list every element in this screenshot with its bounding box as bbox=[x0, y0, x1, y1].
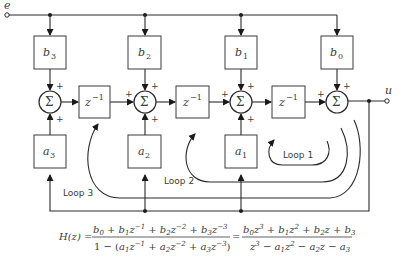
svg-text:0: 0 bbox=[338, 52, 343, 61]
svg-text:b0z3 + b1z2 + b2z + b3: b0z3 + b1z2 + b2z + b3 bbox=[243, 223, 356, 237]
svg-text:+: + bbox=[151, 114, 159, 124]
svg-text:+: + bbox=[247, 114, 255, 124]
svg-text:+: + bbox=[221, 89, 229, 99]
sum-junction-1: Σ bbox=[230, 91, 252, 113]
delay-block-1: z −1 bbox=[79, 86, 110, 118]
svg-text:1: 1 bbox=[242, 151, 247, 160]
svg-text:2: 2 bbox=[146, 52, 151, 61]
input-label: e bbox=[4, 0, 11, 12]
svg-text:Σ: Σ bbox=[236, 95, 244, 109]
svg-text:2: 2 bbox=[145, 151, 150, 160]
svg-text:z: z bbox=[182, 96, 189, 109]
svg-text:H(z) =: H(z) = bbox=[58, 231, 92, 242]
svg-text:+: + bbox=[56, 114, 64, 124]
delay-block-3: z −1 bbox=[272, 86, 305, 118]
svg-text:Σ: Σ bbox=[140, 95, 148, 109]
loop-1-label: Loop 1 bbox=[283, 150, 313, 160]
svg-text:a: a bbox=[235, 145, 242, 158]
svg-text:Σ: Σ bbox=[332, 95, 340, 109]
svg-text:−1: −1 bbox=[92, 93, 104, 102]
transfer-function-equation: H(z) = b0 + b1z−1 + b2z−2 + b3z−3 1 − (a… bbox=[58, 223, 356, 254]
gain-block-a2: a 2 bbox=[128, 135, 161, 168]
svg-text:z: z bbox=[278, 96, 285, 109]
svg-text:+: + bbox=[125, 89, 133, 99]
delay-block-2: z −1 bbox=[176, 86, 209, 118]
svg-text:−1: −1 bbox=[286, 93, 298, 102]
svg-text:+: + bbox=[151, 81, 159, 91]
svg-text:+: + bbox=[343, 81, 351, 91]
svg-text:a: a bbox=[138, 145, 145, 158]
sum-junction-2: Σ bbox=[134, 91, 156, 113]
svg-text:b0 + b1z−1 + b2z−2 + b3z−3: b0 + b1z−1 + b2z−2 + b3z−3 bbox=[93, 223, 228, 237]
gain-block-a3: a 3 bbox=[34, 135, 66, 168]
gain-block-a1: a 1 bbox=[225, 135, 257, 168]
svg-text:1 − (a1z−1 + a2z−2 + a3z−3): 1 − (a1z−1 + a2z−2 + a3z−3) bbox=[94, 240, 231, 254]
gain-block-b2: b 2 bbox=[128, 36, 161, 69]
svg-text:b: b bbox=[43, 46, 50, 59]
output-terminal bbox=[385, 99, 389, 103]
svg-text:+: + bbox=[56, 81, 64, 91]
input-terminal bbox=[5, 13, 9, 17]
svg-text:+: + bbox=[317, 89, 325, 99]
svg-text:=: = bbox=[232, 231, 240, 242]
gain-block-b0: b 0 bbox=[321, 36, 353, 69]
svg-text:a: a bbox=[43, 145, 50, 158]
loop-2-label: Loop 2 bbox=[164, 176, 194, 186]
output-label: u bbox=[385, 84, 392, 97]
svg-text:b: b bbox=[138, 46, 145, 59]
sum-junction-3: Σ bbox=[39, 91, 61, 113]
loop-2-arrow bbox=[186, 128, 347, 182]
block-diagram: e b 3 b 2 b 1 b 0 Σ Σ Σ bbox=[0, 0, 403, 260]
svg-text:−1: −1 bbox=[190, 93, 202, 102]
svg-text:b: b bbox=[330, 46, 337, 59]
svg-text:3: 3 bbox=[50, 151, 55, 160]
svg-text:3: 3 bbox=[51, 52, 56, 61]
svg-text:Σ: Σ bbox=[45, 95, 53, 109]
gain-block-b3: b 3 bbox=[34, 36, 66, 69]
gain-block-b1: b 1 bbox=[225, 36, 257, 69]
svg-text:z: z bbox=[84, 96, 91, 109]
loop-3-label: Loop 3 bbox=[63, 188, 93, 198]
svg-text:+: + bbox=[247, 81, 255, 91]
svg-text:1: 1 bbox=[243, 52, 248, 61]
sum-junction-0: Σ bbox=[326, 91, 348, 113]
svg-text:z3 − a1z2 − a2z − a3: z3 − a1z2 − a2z − a3 bbox=[249, 240, 351, 254]
svg-text:b: b bbox=[235, 46, 242, 59]
